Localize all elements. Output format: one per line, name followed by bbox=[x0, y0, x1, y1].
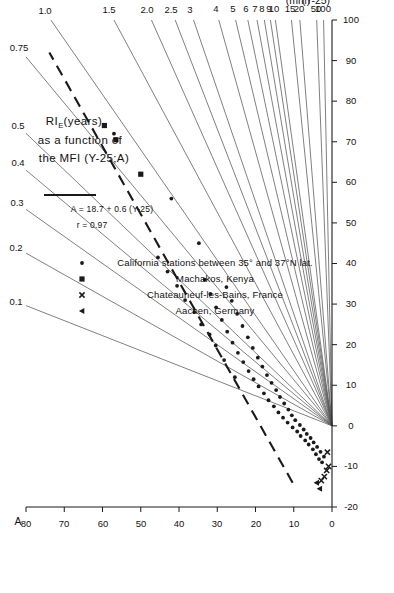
data-point bbox=[220, 318, 224, 322]
title-years: (years) bbox=[64, 115, 103, 127]
data-point bbox=[277, 411, 281, 415]
data-point bbox=[282, 402, 286, 406]
data-point bbox=[166, 270, 170, 274]
data-point bbox=[311, 447, 315, 451]
data-point bbox=[80, 261, 84, 265]
data-point bbox=[312, 441, 316, 445]
ray-label: 0.4 bbox=[11, 158, 24, 168]
data-point bbox=[79, 276, 84, 281]
data-point bbox=[197, 241, 201, 245]
data-point bbox=[251, 346, 255, 350]
ray-label: 5 bbox=[230, 5, 235, 15]
data-point bbox=[231, 341, 235, 345]
y-tick-label: 10 bbox=[288, 519, 299, 529]
data-point bbox=[281, 416, 285, 420]
y-tick-label: 30 bbox=[212, 519, 223, 529]
x-tick-label: 10 bbox=[346, 381, 357, 391]
legend-entry-label: Chateauneuf-les-Bains, France bbox=[147, 290, 283, 300]
ray-label: 1.5 bbox=[102, 6, 115, 16]
data-point bbox=[305, 432, 309, 436]
x-tick-label: 0 bbox=[348, 421, 353, 431]
ray-label: 0.1 bbox=[9, 297, 22, 307]
data-point bbox=[298, 423, 302, 427]
data-point bbox=[307, 443, 311, 447]
data-point bbox=[169, 197, 173, 201]
ray-label: 0.5 bbox=[11, 121, 24, 131]
x-tick-label: 60 bbox=[346, 178, 357, 188]
y-tick-label: 70 bbox=[59, 519, 70, 529]
ray-line bbox=[26, 306, 332, 426]
figure-rotator: 0.10.20.30.40.50.751.01.52.02.5345678910… bbox=[0, 0, 394, 593]
series-square bbox=[102, 123, 144, 177]
data-point bbox=[262, 391, 266, 395]
chart-title-line-3: the MFI (Y-25;A) bbox=[39, 153, 129, 165]
data-point bbox=[274, 388, 278, 392]
ray-label: 10 bbox=[269, 4, 280, 14]
ray-line bbox=[26, 57, 332, 426]
data-point bbox=[233, 375, 237, 379]
x-tick-label: -20 bbox=[344, 502, 358, 512]
data-point bbox=[257, 385, 261, 389]
fit-equation: A = 18.7 + 0.6 (Y-25) bbox=[71, 205, 153, 214]
data-point bbox=[241, 324, 245, 328]
ray-label: 3 bbox=[187, 5, 192, 15]
data-point bbox=[309, 436, 313, 440]
y-axis-title: A bbox=[14, 516, 21, 527]
title-ri: RI bbox=[46, 115, 58, 127]
data-point bbox=[236, 351, 240, 355]
data-point bbox=[295, 430, 299, 434]
data-point bbox=[286, 421, 290, 425]
ray-line bbox=[219, 20, 332, 426]
data-point bbox=[302, 428, 306, 432]
y-tick-label: 80 bbox=[21, 519, 32, 529]
x-tick-label: 80 bbox=[346, 96, 357, 106]
data-point bbox=[299, 434, 303, 438]
data-point bbox=[267, 398, 271, 402]
data-point bbox=[256, 356, 260, 360]
data-point bbox=[208, 333, 212, 337]
data-point bbox=[315, 445, 319, 449]
ray-line bbox=[270, 20, 332, 426]
series-cross bbox=[319, 450, 331, 484]
data-point bbox=[303, 439, 307, 443]
data-point bbox=[293, 418, 297, 422]
data-point bbox=[290, 413, 294, 417]
legend-marker-dot bbox=[80, 261, 84, 265]
data-point bbox=[222, 358, 226, 362]
fit-correlation: r = 0.97 bbox=[77, 221, 108, 230]
chart-title-line-1: RIE(years) bbox=[46, 116, 102, 130]
data-point bbox=[314, 452, 318, 456]
data-point bbox=[79, 308, 84, 314]
data-point bbox=[325, 450, 330, 455]
y-tick-label: 20 bbox=[250, 519, 261, 529]
data-point bbox=[317, 486, 322, 492]
ray-label: 2.0 bbox=[140, 5, 153, 15]
data-point bbox=[138, 172, 143, 177]
legend-marker-triangle bbox=[79, 308, 84, 314]
data-point bbox=[322, 455, 326, 459]
data-point bbox=[319, 450, 323, 454]
data-point bbox=[265, 373, 269, 377]
ray-label: 1.0 bbox=[38, 6, 51, 16]
data-point bbox=[225, 330, 229, 334]
ray-label: 8 bbox=[260, 4, 265, 14]
ray-label: 0.3 bbox=[10, 198, 23, 208]
data-point bbox=[317, 457, 321, 461]
legend-entry-label: California stations between 35° and 37°N… bbox=[117, 258, 313, 268]
data-point bbox=[286, 408, 290, 412]
legend-entry-label: Aachen, Germany bbox=[176, 306, 255, 316]
x-tick-label: 40 bbox=[346, 259, 357, 269]
chart-figure: 0.10.20.30.40.50.751.01.52.02.5345678910… bbox=[0, 0, 394, 593]
data-point bbox=[260, 365, 264, 369]
legend-marker-square bbox=[79, 276, 84, 281]
data-point bbox=[79, 292, 84, 297]
chart-title-line-2: as a function of bbox=[38, 135, 122, 147]
data-point bbox=[199, 322, 203, 326]
ray-line bbox=[291, 20, 332, 426]
y-tick-label: 40 bbox=[174, 519, 185, 529]
ray-fan bbox=[26, 20, 332, 426]
x-tick-label: 70 bbox=[346, 137, 357, 147]
legend-marker-cross bbox=[79, 292, 84, 297]
data-point bbox=[102, 123, 107, 128]
ray-line bbox=[264, 20, 332, 426]
